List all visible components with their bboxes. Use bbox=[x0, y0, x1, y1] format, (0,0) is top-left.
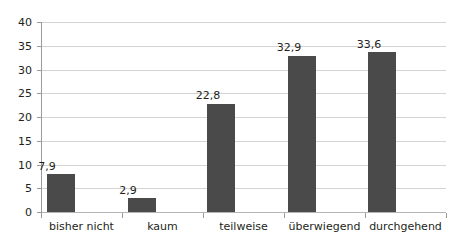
y-axis-label-5: 5 bbox=[4, 183, 32, 194]
category-tick-0 bbox=[41, 213, 42, 218]
y-tick-35 bbox=[37, 46, 41, 47]
bar-kaum bbox=[128, 198, 156, 212]
y-axis-label-35: 35 bbox=[4, 41, 32, 52]
category-tick-4 bbox=[365, 213, 366, 218]
bar-bisher-nicht bbox=[47, 174, 75, 212]
bar-chart: 40 35 30 25 20 15 10 5 0 7,9 2,9 22,8 32… bbox=[0, 0, 465, 251]
bar-ueberwiegend bbox=[288, 56, 316, 212]
data-label-ueberwiegend: 32,9 bbox=[271, 42, 307, 53]
y-tick-15 bbox=[37, 141, 41, 142]
y-tick-20 bbox=[37, 117, 41, 118]
y-tick-5 bbox=[37, 188, 41, 189]
gridline-40 bbox=[41, 22, 446, 23]
category-tick-3 bbox=[284, 213, 285, 218]
category-tick-5 bbox=[446, 213, 447, 218]
bar-teilweise bbox=[207, 104, 235, 212]
category-label-kaum: kaum bbox=[122, 221, 203, 233]
gridline-baseline-0 bbox=[41, 212, 446, 213]
y-axis-label-40: 40 bbox=[4, 17, 32, 28]
category-label-bisher-nicht: bisher nicht bbox=[41, 221, 122, 233]
y-tick-25 bbox=[37, 93, 41, 94]
y-axis-label-25: 25 bbox=[4, 88, 32, 99]
data-label-teilweise: 22,8 bbox=[190, 90, 226, 101]
data-label-durchgehend: 33,6 bbox=[351, 39, 387, 50]
category-label-teilweise: teilweise bbox=[203, 221, 284, 233]
y-axis-label-30: 30 bbox=[4, 65, 32, 76]
category-label-durchgehend: durchgehend bbox=[365, 221, 446, 233]
category-tick-2 bbox=[203, 213, 204, 218]
bar-durchgehend bbox=[368, 52, 396, 212]
category-label-ueberwiegend: überwiegend bbox=[284, 221, 365, 233]
category-tick-1 bbox=[122, 213, 123, 218]
y-tick-40 bbox=[37, 22, 41, 23]
data-label-bisher-nicht: 7,9 bbox=[33, 161, 61, 172]
y-tick-30 bbox=[37, 70, 41, 71]
y-axis-label-15: 15 bbox=[4, 136, 32, 147]
y-axis-label-0: 0 bbox=[4, 207, 32, 218]
data-label-kaum: 2,9 bbox=[114, 185, 142, 196]
value-axis-line bbox=[41, 22, 42, 213]
plot-area bbox=[41, 22, 446, 212]
y-axis-label-10: 10 bbox=[4, 160, 32, 171]
y-axis-label-20: 20 bbox=[4, 112, 32, 123]
